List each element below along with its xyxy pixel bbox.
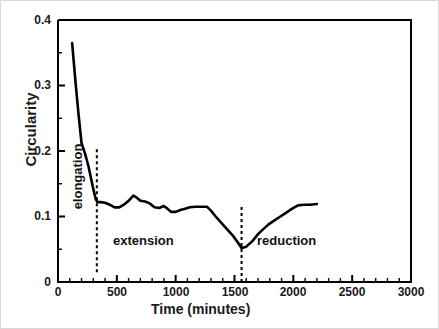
x-axis-title: Time (minutes): [151, 301, 250, 317]
y-axis-ticks: [58, 20, 65, 282]
chart-figure: Circularity Time (minutes) 0.4 0.3 0.2 0…: [0, 0, 439, 329]
region-label-elongation: elongation: [70, 127, 85, 227]
y-tick-label-0.4: 0.4: [17, 13, 51, 27]
region-label-extension: extension: [113, 233, 174, 248]
axis-frame: [58, 20, 411, 282]
plot-border: [58, 20, 411, 282]
x-tick-label-500: 500: [97, 285, 137, 299]
x-axis-ticks: [58, 275, 411, 282]
y-tick-label-0.1: 0.1: [17, 209, 51, 223]
divider-lines: [97, 148, 242, 282]
x-tick-label-0: 0: [38, 285, 78, 299]
x-tick-label-2500: 2500: [332, 285, 372, 299]
circularity-data-line: [72, 43, 317, 248]
x-tick-label-3000: 3000: [391, 285, 431, 299]
x-tick-label-2000: 2000: [273, 285, 313, 299]
y-tick-label-0.3: 0.3: [17, 78, 51, 92]
y-tick-label-0.2: 0.2: [17, 144, 51, 158]
x-tick-label-1000: 1000: [156, 285, 196, 299]
chart-plot-area: [1, 1, 439, 329]
region-label-reduction: reduction: [257, 233, 316, 248]
x-tick-label-1500: 1500: [215, 285, 255, 299]
